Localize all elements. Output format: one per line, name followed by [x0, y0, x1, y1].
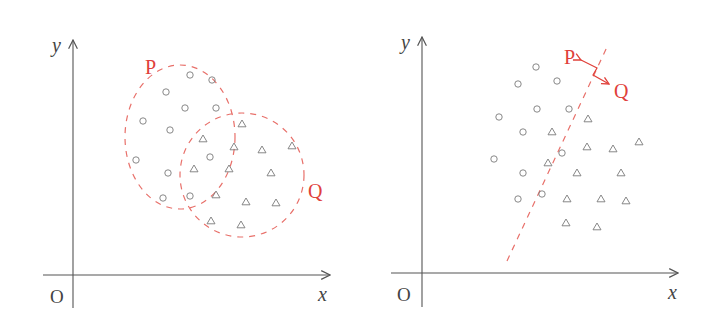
triangle-point-icon — [242, 198, 250, 205]
triangle-point-icon — [230, 143, 238, 150]
circle-point-icon — [491, 156, 497, 162]
triangle-point-icon — [190, 165, 198, 172]
triangle-point-icon — [573, 169, 581, 176]
region-q-boundary — [180, 113, 304, 237]
left-regions: PQ — [125, 56, 323, 237]
region-q-label: Q — [308, 180, 323, 202]
triangle-point-icon — [288, 142, 296, 149]
circle-point-icon — [182, 105, 188, 111]
right-x-label: x — [667, 281, 677, 303]
triangle-point-icon — [563, 195, 571, 202]
triangle-point-icon — [635, 138, 643, 145]
triangle-point-icon — [225, 165, 233, 172]
region-p-label: P — [145, 56, 156, 78]
circle-point-icon — [160, 195, 166, 201]
triangle-point-icon — [237, 221, 245, 228]
circle-point-icon — [533, 64, 539, 70]
triangle-point-icon — [258, 146, 266, 153]
triangle-point-icon — [609, 145, 617, 152]
triangle-point-icon — [617, 169, 625, 176]
triangle-point-icon — [562, 219, 570, 226]
circle-point-icon — [207, 154, 213, 160]
circle-point-icon — [187, 72, 193, 78]
circle-point-icon — [520, 170, 526, 176]
triangle-point-icon — [238, 120, 246, 127]
decision-boundary — [507, 47, 607, 261]
triangle-point-icon — [272, 199, 280, 206]
circle-point-icon — [539, 191, 545, 197]
right-label-p: P — [564, 46, 575, 68]
circle-point-icon — [187, 193, 193, 199]
left-points — [133, 72, 296, 228]
circle-point-icon — [515, 196, 521, 202]
triangle-point-icon — [548, 128, 556, 135]
left-origin-label: O — [50, 286, 64, 307]
circle-point-icon — [163, 89, 169, 95]
triangle-point-icon — [583, 143, 591, 150]
triangle-point-icon — [622, 197, 630, 204]
region-p-boundary — [125, 65, 235, 209]
circle-point-icon — [165, 170, 171, 176]
circle-point-icon — [534, 106, 540, 112]
left-y-label: y — [50, 34, 61, 57]
triangle-point-icon — [199, 135, 207, 142]
triangle-point-icon — [597, 195, 605, 202]
circle-point-icon — [566, 106, 572, 112]
circle-point-icon — [167, 127, 173, 133]
left-x-label: x — [317, 283, 327, 305]
triangle-point-icon — [207, 217, 215, 224]
triangle-point-icon — [584, 115, 592, 122]
circle-point-icon — [213, 105, 219, 111]
triangle-point-icon — [544, 159, 552, 166]
circle-point-icon — [140, 118, 146, 124]
circle-point-icon — [496, 114, 502, 120]
triangle-point-icon — [267, 169, 275, 176]
triangle-point-icon — [593, 223, 601, 230]
right-label-q: Q — [614, 80, 629, 102]
right-origin-label: O — [397, 284, 411, 305]
circle-point-icon — [520, 129, 526, 135]
circle-point-icon — [515, 81, 521, 87]
double-arrow-icon — [581, 60, 609, 84]
right-y-label: y — [399, 31, 410, 54]
right-panel: O x y P Q — [391, 31, 678, 307]
left-panel: O x y PQ — [43, 34, 330, 308]
circle-point-icon — [559, 150, 565, 156]
circle-point-icon — [133, 157, 139, 163]
diagram-canvas: O x y PQ O x y P Q — [0, 0, 714, 325]
circle-point-icon — [554, 78, 560, 84]
